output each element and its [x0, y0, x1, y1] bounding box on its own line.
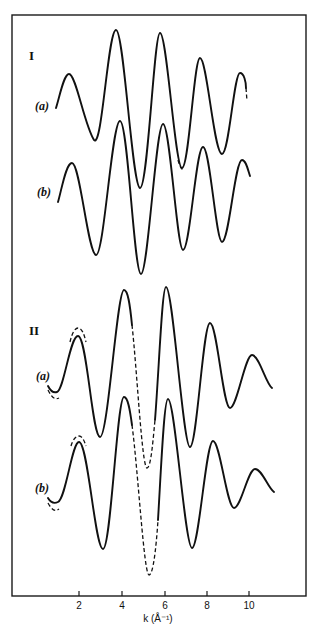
x-tick-label-10: 10	[243, 600, 255, 611]
curve-I-a	[56, 30, 247, 188]
panel-label-I: I	[29, 48, 34, 63]
curve-II-a	[48, 287, 272, 468]
x-axis-label: k (Å⁻¹)	[143, 612, 172, 624]
curve-II-b	[48, 397, 274, 575]
curve-label-I-b: (b)	[37, 185, 51, 199]
panel-label-II: II	[29, 323, 39, 338]
curve-label-II-a: (a)	[36, 369, 50, 383]
x-tick-label-2: 2	[76, 600, 82, 611]
curve-label-I-a: (a)	[35, 99, 49, 113]
x-tick-label-4: 4	[119, 600, 125, 611]
curve-I-b	[58, 121, 250, 274]
x-tick-label-6: 6	[162, 600, 168, 611]
exafs-figure: I II (a) (b) (a) (b) 2 4 6 8	[0, 0, 316, 629]
x-tick-label-8: 8	[204, 600, 210, 611]
curve-label-II-b: (b)	[35, 481, 49, 495]
